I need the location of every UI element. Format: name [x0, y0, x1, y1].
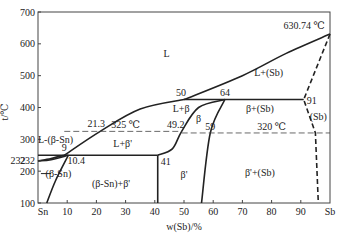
region-label: L	[163, 48, 169, 59]
annotation-label: 64	[220, 87, 230, 98]
region-label: L+β	[173, 103, 190, 114]
x-tick-label: 20	[91, 206, 101, 217]
sn-sb-phase-diagram: 102030405060708090SnSb100200232300400500…	[0, 0, 342, 236]
annotation-label: 91	[307, 95, 317, 106]
x-end-label-sn: Sn	[38, 206, 49, 217]
x-tick-label: 50	[179, 206, 189, 217]
region-label: (Sb)	[310, 111, 327, 123]
annotation-label: 41	[161, 156, 171, 167]
annotations: 630.74 ℃50649121.3325 ℃49.259320 ℃910.44…	[11, 20, 325, 174]
y-tick-label: 500	[20, 70, 35, 81]
annotation-label: 320 ℃	[257, 121, 286, 132]
x-tick-label: 10	[62, 206, 72, 217]
y-tick-label: 400	[20, 102, 35, 113]
annotation-label: 325 ℃	[111, 119, 140, 130]
annotation-label: 49.2	[167, 119, 185, 130]
x-tick-label: 60	[208, 206, 218, 217]
region-label: (β-Sn)+β'	[92, 178, 130, 190]
x-tick-label: 40	[150, 206, 160, 217]
annotation-label: 10.4	[68, 155, 86, 166]
annotation-label: 232	[11, 155, 26, 166]
region-label: L-(β-Sn)	[38, 134, 73, 146]
x-end-label-sb: Sb	[325, 206, 336, 217]
annotation-label: 630.74 ℃	[283, 20, 324, 31]
region-label: L+β'	[113, 138, 132, 149]
y-tick-label: 700	[20, 7, 35, 18]
region-label: L+(Sb)	[254, 67, 283, 79]
annotation-label: 9	[62, 142, 67, 153]
x-axis-label: w(Sb)/%	[166, 221, 202, 233]
annotation-label: 21.3	[87, 118, 105, 129]
y-tick-label: 300	[20, 134, 35, 145]
annotation-label: 50	[176, 87, 186, 98]
solvus-sn-line	[47, 155, 69, 203]
x-tick-label: 70	[237, 206, 247, 217]
y-tick-label: 100	[20, 198, 35, 209]
region-label: β+(Sb)	[246, 103, 274, 115]
y-tick-label: 600	[20, 38, 35, 49]
x-tick-label: 80	[267, 206, 277, 217]
x-tick-label: 90	[296, 206, 306, 217]
beta-right-line	[202, 100, 225, 203]
y-axis-label: t/℃	[0, 104, 10, 121]
region-label: β'+(Sb)	[245, 167, 275, 179]
y-tick-label: 200	[20, 166, 35, 177]
annotation-label: 59	[205, 121, 215, 132]
x-tick-label: 30	[121, 206, 131, 217]
region-label: β	[196, 113, 201, 124]
region-label: β'	[181, 169, 188, 180]
